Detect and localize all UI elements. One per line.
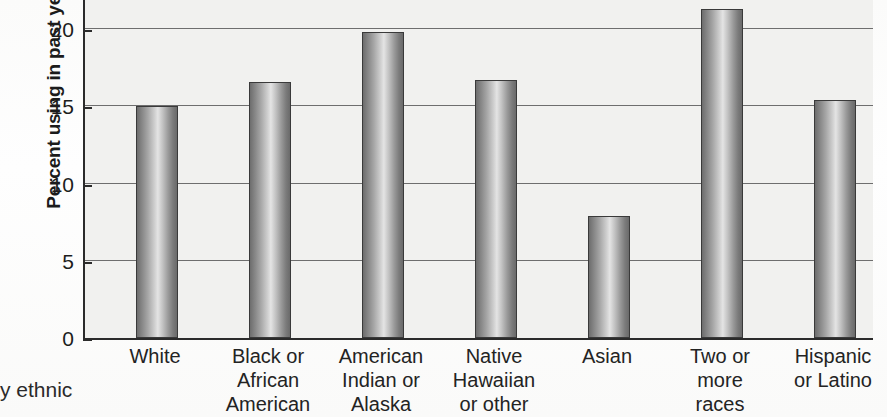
x-label-line: Indian or: [322, 368, 440, 392]
x-label-line: Hawaiian: [435, 368, 553, 392]
x-label-line: American: [209, 392, 327, 416]
x-label-line: Native: [435, 344, 553, 368]
bar: [249, 82, 291, 338]
x-axis-label: Hispanicor Latino: [774, 344, 887, 392]
y-tick-label-5: 5: [28, 250, 74, 274]
caption-fragment: y ethnic: [0, 378, 72, 402]
y-tick-mark-10: [83, 185, 92, 187]
x-label-line: more: [661, 368, 779, 392]
x-label-line: Black or: [209, 344, 327, 368]
x-axis-category-labels: WhiteBlack orAfricanAmericanAmericanIndi…: [83, 344, 873, 417]
x-label-line: African: [209, 368, 327, 392]
chart-page: Percent using in past year 05101520 Whit…: [0, 0, 887, 417]
y-tick-mark-20: [83, 30, 92, 32]
bar: [475, 80, 517, 338]
bar: [136, 106, 178, 338]
x-label-line: Two or: [661, 344, 779, 368]
bar: [814, 100, 856, 338]
y-tick-mark-0: [83, 339, 92, 341]
x-label-line: or other: [435, 392, 553, 416]
plot-area: [83, 0, 873, 340]
x-label-line: Asian: [548, 344, 666, 368]
y-tick-mark-15: [83, 107, 92, 109]
y-tick-label-15: 15: [28, 95, 74, 119]
y-tick-mark-5: [83, 262, 92, 264]
x-axis-label: White: [96, 344, 214, 368]
x-label-line: American: [322, 344, 440, 368]
y-tick-label-20: 20: [28, 18, 74, 42]
y-tick-label-0: 0: [28, 327, 74, 351]
x-axis-label: Asian: [548, 344, 666, 368]
x-label-line: Hispanic: [774, 344, 887, 368]
x-axis-label: AmericanIndian orAlaska: [322, 344, 440, 416]
x-axis-label: Black orAfricanAmerican: [209, 344, 327, 416]
x-axis-label: Two ormoreraces: [661, 344, 779, 416]
bar: [701, 9, 743, 338]
x-label-line: Alaska: [322, 392, 440, 416]
x-label-line: White: [96, 344, 214, 368]
x-axis-label: NativeHawaiianor other: [435, 344, 553, 416]
y-axis-tick-labels: 05101520: [0, 0, 74, 417]
bar: [362, 32, 404, 338]
x-label-line: races: [661, 392, 779, 416]
x-label-line: or Latino: [774, 368, 887, 392]
gridline-20: [85, 28, 873, 29]
bar: [588, 216, 630, 338]
y-tick-label-10: 10: [28, 173, 74, 197]
